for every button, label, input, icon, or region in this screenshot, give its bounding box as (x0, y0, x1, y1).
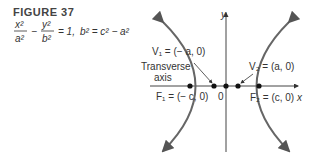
vertex-v2 (235, 83, 240, 88)
focus-f2 (256, 83, 261, 88)
y-axis-label: y (220, 9, 227, 20)
f1-label: F₁ = (− c, 0) (156, 91, 208, 102)
v1-label: V₁ = (− a, 0) (152, 46, 205, 57)
focus-f1 (187, 83, 192, 88)
origin-point (223, 83, 228, 88)
f2-label: F₂ = (c, 0) (250, 92, 294, 103)
v2-label: V₂ = (a, 0) (249, 61, 294, 72)
hyperbola-diagram: y x 0 V₁ = (− a, 0) V₂ = (a, 0) F₁ = (− … (0, 0, 323, 167)
vertex-v1 (211, 83, 216, 88)
origin-label: 0 (218, 91, 224, 102)
x-axis-label: x (296, 92, 303, 103)
axis-label: axis (154, 72, 172, 83)
v1-pointer (194, 63, 212, 83)
v2-pointer (241, 74, 253, 83)
transverse-label: Transverse (141, 61, 191, 72)
